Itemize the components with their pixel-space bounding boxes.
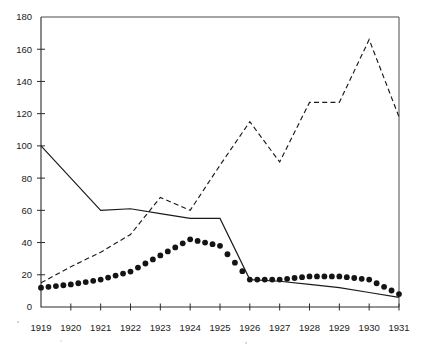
- y-tick-label: 0: [27, 301, 32, 312]
- y-tick-label: 140: [16, 76, 32, 87]
- frame-border: [41, 17, 399, 307]
- data-point-marker: [299, 274, 305, 280]
- x-tick-label: 1930: [359, 322, 380, 333]
- y-tick-label: 40: [21, 237, 32, 248]
- y-tick-label: 160: [16, 44, 32, 55]
- data-series-group: [38, 40, 402, 298]
- x-tick-label: 1920: [60, 322, 81, 333]
- data-point-marker: [322, 273, 328, 279]
- x-axis-ticks: 1919192019211922192319241925192619271928…: [30, 304, 409, 334]
- series-dotted-line: [38, 236, 402, 297]
- y-tick-label: 60: [21, 205, 32, 216]
- data-point-marker: [68, 282, 74, 288]
- data-point-marker: [143, 261, 149, 267]
- data-point-marker: [113, 273, 119, 279]
- x-tick-label: 1929: [329, 322, 350, 333]
- chart-frame: [41, 17, 399, 307]
- data-point-marker: [210, 241, 216, 247]
- data-point-marker: [172, 244, 178, 250]
- y-tick-label: 120: [16, 108, 32, 119]
- data-point-marker: [225, 251, 231, 257]
- data-point-marker: [38, 285, 44, 291]
- y-tick-label: 100: [16, 140, 32, 151]
- data-point-marker: [180, 240, 186, 246]
- data-point-marker: [374, 280, 380, 286]
- data-point-marker: [329, 273, 335, 279]
- data-point-marker: [60, 282, 66, 288]
- data-point-marker: [307, 273, 313, 279]
- data-point-marker: [351, 275, 357, 281]
- x-tick-label: 1928: [299, 322, 320, 333]
- data-point-marker: [389, 288, 395, 294]
- y-tick-label: 80: [21, 173, 32, 184]
- x-tick-label: 1927: [269, 322, 290, 333]
- data-point-marker: [150, 257, 156, 263]
- data-point-marker: [269, 277, 275, 283]
- data-point-marker: [277, 277, 283, 283]
- data-point-marker: [165, 249, 171, 255]
- data-point-marker: [366, 277, 372, 283]
- x-tick-label: 1921: [90, 322, 111, 333]
- data-point-marker: [98, 277, 104, 283]
- line-chart: 020406080100120140160180 191919201921192…: [0, 0, 429, 350]
- data-point-marker: [105, 275, 111, 281]
- x-tick-label: 1925: [209, 322, 230, 333]
- data-point-marker: [187, 236, 193, 242]
- data-point-marker: [128, 269, 134, 275]
- data-point-marker: [292, 275, 298, 281]
- data-point-marker: [195, 238, 201, 244]
- data-point-marker: [46, 284, 52, 290]
- data-point-marker: [344, 274, 350, 280]
- series-solid-line: [41, 146, 399, 297]
- data-point-marker: [75, 280, 81, 286]
- data-point-marker: [359, 276, 365, 282]
- x-tick-label: 1923: [150, 322, 171, 333]
- data-point-marker: [239, 268, 245, 274]
- chart-container: 020406080100120140160180 191919201921192…: [0, 0, 429, 350]
- axis-lines: [41, 17, 399, 307]
- data-point-marker: [135, 265, 141, 271]
- data-point-marker: [53, 283, 59, 289]
- x-tick-label: 1931: [388, 322, 409, 333]
- data-point-marker: [314, 273, 320, 279]
- y-tick-label: 180: [16, 11, 32, 22]
- data-point-marker: [217, 243, 223, 249]
- y-tick-label: 20: [21, 269, 32, 280]
- data-point-marker: [247, 277, 253, 283]
- data-point-marker: [202, 240, 208, 246]
- data-point-marker: [120, 271, 126, 277]
- data-point-marker: [232, 260, 238, 266]
- data-point-marker: [396, 291, 402, 297]
- x-tick-label: 1926: [239, 322, 260, 333]
- data-point-marker: [157, 253, 163, 259]
- data-point-marker: [83, 279, 89, 285]
- data-point-marker: [284, 276, 290, 282]
- data-point-marker: [262, 277, 268, 283]
- data-point-marker: [90, 278, 96, 284]
- x-tick-label: 1924: [180, 322, 201, 333]
- data-point-marker: [254, 277, 260, 283]
- data-point-marker: [381, 284, 387, 290]
- x-tick-label: 1922: [120, 322, 141, 333]
- data-point-marker: [336, 273, 342, 279]
- x-tick-label: 1919: [30, 322, 51, 333]
